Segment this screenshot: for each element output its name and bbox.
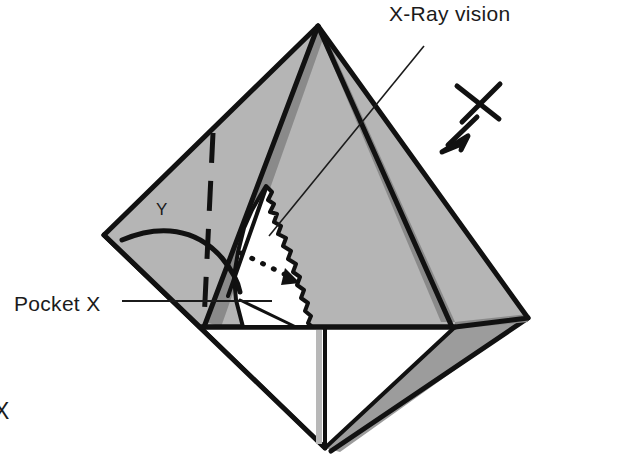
label-xray-vision: X-Ray vision bbox=[389, 2, 510, 26]
diagram-canvas: X-Ray vision Pocket X Y X bbox=[0, 0, 622, 457]
lower-pyramid-right-face bbox=[325, 327, 455, 448]
x-cross-and-arrow bbox=[442, 84, 500, 152]
pyramid-cutaway-illustration bbox=[0, 0, 622, 457]
label-y-marker: Y bbox=[156, 200, 168, 220]
label-x-cut-off: X bbox=[0, 398, 10, 425]
label-pocket-x: Pocket X bbox=[14, 292, 100, 316]
